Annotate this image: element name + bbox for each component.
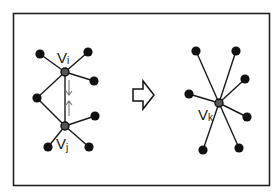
diagram-canvas: Vi Vj Vk — [0, 0, 279, 195]
node — [231, 46, 240, 55]
node-vk — [215, 99, 223, 107]
node — [198, 145, 207, 154]
node — [89, 76, 98, 85]
node — [234, 143, 243, 152]
node — [191, 46, 200, 55]
node — [240, 74, 249, 83]
node-vi — [61, 68, 69, 76]
node — [184, 89, 193, 98]
node — [83, 47, 92, 56]
node — [90, 111, 99, 120]
node — [43, 142, 52, 151]
node-vj — [61, 122, 69, 130]
node — [35, 49, 44, 58]
node — [84, 142, 93, 151]
node — [242, 112, 251, 121]
node — [32, 93, 41, 102]
